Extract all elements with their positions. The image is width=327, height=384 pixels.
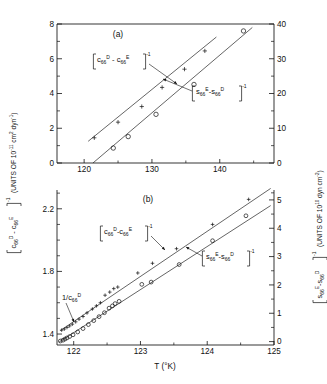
annot-b-c-bracket-left [100,226,103,241]
panel-b-right-tick-label: 5 [277,196,282,205]
panel-b-data-point-circle [81,327,85,331]
panel-a-data-point-plus [116,120,120,124]
right-axis-bracket-close [313,257,327,260]
panel-a-data-point-plus [203,49,207,53]
panel-a-data-point-plus [160,85,164,89]
panel-b-data-point-circle [117,299,121,303]
panel-b-data-point-plus [77,317,81,321]
annot-a-s-label: s66E-s66D [196,86,225,97]
panel-a-data-point-plus [182,67,186,71]
panel-b-data-point-circle [76,330,80,334]
x-axis-title: T (°K) [154,362,176,371]
panel-b-data-point-circle [113,302,117,306]
panel-b-data-point-plus [175,247,179,251]
panel-b-data-point-plus [71,322,75,326]
left-axis-exponent: -1 [5,197,11,202]
scientific-figure: 02468010203040120130140(a)c66D - c66E-1s… [0,0,327,384]
panel-a-data-point-circle [241,29,245,33]
panel-b-data-point-plus [211,223,215,227]
panel-a-left-tick-label: 8 [49,20,54,29]
panel-a-left-tick-label: 6 [49,55,54,64]
panel-b-data-point-plus [116,285,120,289]
panel-b-data-point-plus [74,320,78,324]
panel-b-fit-line-1 [59,206,271,343]
annot-a-s-bracket-left [192,86,195,101]
panel-a-data-point-circle [126,134,130,138]
panel-a-left-tick-label: 4 [49,89,54,98]
panel-a-x-tick-label: 140 [213,165,227,174]
panel-b-right-tick-label: 3 [277,252,282,261]
annot-a-c-bracket-left [93,54,96,69]
panel-b-right-tick-label: 2 [277,281,282,290]
panel-a-right-tick-label: 20 [277,89,287,98]
panel-a-fit-line-1 [93,27,252,163]
panel-a-right-tick-label: 10 [277,124,287,133]
panel-b-right-tick-label: 4 [277,224,282,233]
panel-b-data-point-plus [247,198,251,202]
panel-a-data-point-plus [140,104,144,108]
annot-a-c-label: c66D - c66E [97,54,130,65]
panel-b-data-point-plus [108,290,112,294]
panel-a-data-point-circle [111,146,115,150]
panel-a-right-tick-label: 40 [277,20,287,29]
right-axis-expression: s66E-s66D [314,270,325,298]
panel-b-data-point-circle [140,282,144,286]
figure-root: 02468010203040120130140(a)c66D - c66E-1s… [0,0,327,384]
left-axis-expression: c66D - c66E [8,216,19,249]
panel-b-right-tick-label: 0 [277,337,282,346]
annot-b-c-exponent: -1 [148,223,153,229]
right-axis-bracket-open [313,300,327,303]
panel-b-data-point-circle [244,214,248,218]
panel-a-left-tick-label: 2 [49,124,54,133]
panel-b-x-tick-label: 122 [67,347,81,356]
panel-b-x-tick-label: 125 [267,347,281,356]
right-axis-units: (UNITS OF 1010 dyn cm-2) [315,170,324,247]
panel-a-x-tick-label: 130 [145,165,159,174]
annot-b-inv-label: 1/c66D [62,292,81,303]
panel-a-x-tick-label: 120 [77,165,91,174]
panel-b-data-point-plus [103,293,107,297]
panel-b-left-tick-label: 1.4 [43,330,55,339]
annot-b-c-label: c66D-c66E [104,226,133,237]
annot-a-s-arrow [163,79,192,91]
panel-a-label: (a) [113,29,124,39]
annot-b-s-bracket-left [202,251,205,266]
panel-b-x-tick-label: 123 [134,347,148,356]
left-axis-label-group: c66D - c66E-1(UNITS OF 10-11 cm2 dyn-1) [5,113,22,253]
panel-b-left-tick-label: 1.8 [43,267,55,276]
panel-a-right-tick-label: 0 [277,159,282,168]
right-axis-label-group: s66E-s66D-1(UNITS OF 1010 dyn cm-2) [311,170,327,302]
annot-a-s-exponent: -1 [242,83,247,89]
left-axis-bracket-close [7,203,21,206]
panel-a-data-point-plus [92,136,96,140]
panel-b-data-point-plus [112,287,116,291]
panel-b-data-point-plus [136,271,140,275]
panel-b-data-point-plus [81,315,85,319]
panel-b-label: (b) [143,194,154,204]
left-axis-units: (UNITS OF 10-11 cm2 dyn-1) [9,113,18,193]
panel-b-data-point-circle [211,239,215,243]
right-axis-exponent: -1 [311,251,317,256]
panel-a-data-point-circle [154,112,158,116]
panel-a-right-tick-label: 30 [277,55,287,64]
annot-a-c-exponent: -1 [146,51,151,57]
panel-b-data-point-plus [151,261,155,265]
panel-b-x-tick-label: 124 [200,347,214,356]
annot-b-s-exponent: -1 [250,248,255,254]
annot-b-s-label: s66E-s66D [206,251,234,262]
panel-b-left-tick-label: 2.2 [43,205,55,214]
panel-b-right-tick-label: 1 [277,309,282,318]
panel-a-left-tick-label: 0 [49,159,54,168]
annot-a-c-arrow [149,64,177,84]
left-axis-bracket-open [7,250,21,253]
